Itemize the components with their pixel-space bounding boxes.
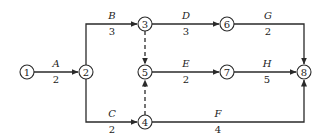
activity-f-name: F: [214, 108, 223, 119]
activity-d-name: D: [181, 10, 190, 21]
activity-d: D 3: [152, 10, 219, 37]
node-7-label: 7: [224, 67, 230, 78]
node-8: 8: [297, 65, 311, 79]
activity-a-duration: 2: [53, 74, 59, 85]
node-1-label: 1: [24, 67, 30, 78]
activity-b: B 3: [86, 10, 137, 65]
activity-c: C 2: [86, 79, 137, 135]
node-7: 7: [220, 65, 234, 79]
activity-h-name: H: [262, 58, 272, 69]
activity-h: H 5: [234, 58, 296, 85]
activity-b-duration: 3: [109, 26, 115, 37]
activity-c-name: C: [108, 108, 116, 119]
node-3: 3: [138, 17, 152, 31]
activity-f: F 4: [152, 80, 304, 135]
node-8-label: 8: [301, 67, 307, 78]
activity-c-duration: 2: [109, 124, 115, 135]
node-4-label: 4: [142, 117, 148, 128]
node-2-label: 2: [83, 67, 89, 78]
node-3-label: 3: [142, 19, 148, 30]
node-4: 4: [138, 115, 152, 129]
network-diagram: A 2 B 3 C 2 D 3 E 2 F 4 G 2: [0, 0, 324, 139]
activity-a-name: A: [51, 58, 59, 69]
node-2: 2: [79, 65, 93, 79]
activity-g: G 2: [234, 10, 304, 64]
activity-d-duration: 3: [183, 26, 189, 37]
activity-b-name: B: [107, 10, 115, 21]
activity-e-duration: 2: [183, 74, 189, 85]
activity-g-name: G: [264, 10, 272, 21]
activity-h-duration: 5: [264, 74, 270, 85]
activity-f-duration: 4: [215, 124, 221, 135]
node-6: 6: [220, 17, 234, 31]
node-1: 1: [20, 65, 34, 79]
activity-e-name: E: [181, 58, 190, 69]
node-6-label: 6: [224, 19, 230, 30]
activity-g-duration: 2: [265, 26, 271, 37]
activity-e: E 2: [152, 58, 219, 85]
node-5-label: 5: [142, 67, 148, 78]
node-5: 5: [138, 65, 152, 79]
activity-a: A 2: [34, 58, 78, 85]
